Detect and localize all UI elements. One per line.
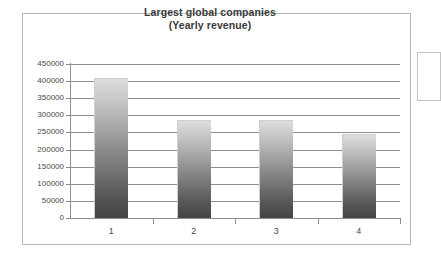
bar <box>94 78 128 218</box>
chart-title-line-2: (Yearly revenue) <box>60 19 360 32</box>
chart-title: Largest global companies (Yearly revenue… <box>60 6 360 31</box>
y-axis-tick-label: 0 <box>18 214 64 222</box>
y-axis-tick-label: 50000 <box>18 197 64 205</box>
chart-title-line-1: Largest global companies <box>60 6 360 19</box>
y-axis-tick-label: 400000 <box>18 77 64 85</box>
y-axis-tick-label: 350000 <box>18 94 64 102</box>
x-axis-tick-mark <box>400 219 401 224</box>
y-axis-tick-label: 200000 <box>18 146 64 154</box>
legend-box-clipped <box>417 52 441 101</box>
x-axis-tick-label: 3 <box>256 226 296 236</box>
x-axis-tick-label: 2 <box>174 226 214 236</box>
x-axis-tick-label: 4 <box>339 226 379 236</box>
x-axis-tick-mark <box>153 219 154 224</box>
x-axis-tick-label: 1 <box>91 226 131 236</box>
y-axis-tick-label: 150000 <box>18 163 64 171</box>
x-axis-tick-mark <box>235 219 236 224</box>
y-axis-tick-label: 100000 <box>18 180 64 188</box>
y-axis-tick-label: 300000 <box>18 111 64 119</box>
gridline <box>70 64 400 65</box>
y-axis-tick-label: 250000 <box>18 128 64 136</box>
plot-area <box>70 64 400 218</box>
bar <box>342 134 376 218</box>
bar <box>177 120 211 218</box>
bar <box>259 120 293 218</box>
x-axis-tick-mark <box>318 219 319 224</box>
y-axis-tick-label: 450000 <box>18 60 64 68</box>
